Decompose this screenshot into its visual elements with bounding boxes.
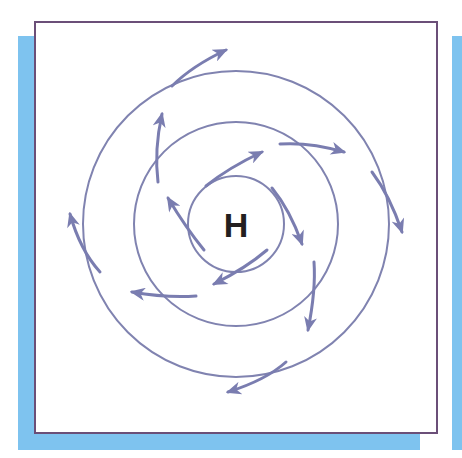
wind-arrow-icon [132,292,196,297]
wind-arrow-icon [157,114,162,182]
wind-arrow-icon [168,198,204,250]
wind-arrow-icon [206,152,262,186]
wind-arrow-icon [272,188,302,244]
wind-arrow-icon [280,144,344,152]
high-pressure-label: H [224,206,249,244]
high-pressure-diagram: H [0,0,462,458]
